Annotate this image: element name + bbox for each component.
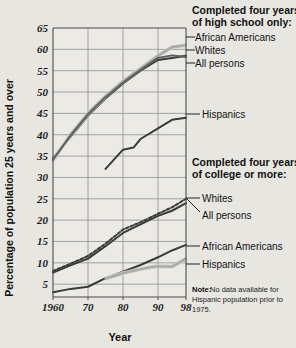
x-axis-title: Year bbox=[108, 331, 132, 343]
plot-area bbox=[53, 28, 186, 297]
y-tick-label: 25 bbox=[36, 193, 49, 205]
y-tick-label: 35 bbox=[36, 150, 49, 162]
note-text-line3: 1975. bbox=[192, 305, 211, 314]
y-tick-label: 60 bbox=[37, 43, 49, 55]
legend-hs-item-all-persons: All persons bbox=[195, 58, 244, 69]
legend-college-item-all-persons: All persons bbox=[202, 210, 251, 221]
legend-hs-item-hispanics: Hispanics bbox=[202, 109, 245, 120]
note-text-line1: No data available for bbox=[210, 285, 279, 294]
y-tick-label: 40 bbox=[36, 129, 49, 141]
y-tick-label: 45 bbox=[36, 107, 49, 119]
y-tick-label: 15 bbox=[37, 235, 49, 247]
legend-hs-item-whites: Whites bbox=[195, 45, 226, 56]
y-tick-label: 65 bbox=[37, 22, 49, 34]
legend-college-heading-line1: Completed four years bbox=[192, 156, 296, 168]
chart-figure: 5101520253035404550556065 196070809098 P… bbox=[0, 0, 296, 348]
x-tick-label: 90 bbox=[153, 301, 165, 313]
y-tick-label: 55 bbox=[37, 65, 49, 77]
legend-college-item-hispanics: Hispanics bbox=[202, 259, 245, 270]
y-tick-label: 30 bbox=[36, 171, 49, 183]
legend-hs-heading-line2: of high school only: bbox=[192, 16, 292, 28]
note-text-line2: Hispanic population prior to bbox=[192, 295, 283, 304]
legend-college-item-whites: Whites bbox=[202, 193, 233, 204]
legend-college-heading-line2: of college or more: bbox=[192, 168, 287, 180]
x-tick-label: 1960 bbox=[42, 301, 65, 313]
x-tick-label: 98 bbox=[181, 301, 193, 313]
x-tick-label: 70 bbox=[83, 301, 95, 313]
y-tick-label: 20 bbox=[36, 214, 49, 226]
note-label: Note: bbox=[192, 285, 211, 294]
y-tick-label: 5 bbox=[43, 278, 49, 290]
legend-hs-item-african-americans: African Americans bbox=[195, 32, 276, 43]
legend-hs-heading-line1: Completed four years bbox=[192, 4, 296, 16]
y-tick-label: 10 bbox=[37, 257, 49, 269]
y-axis-title: Percentage of population 25 years and ov… bbox=[3, 79, 15, 297]
x-tick-label: 80 bbox=[118, 301, 130, 313]
legend-college-item-african-americans: African Americans bbox=[202, 241, 283, 252]
y-tick-label: 50 bbox=[37, 86, 49, 98]
education-attainment-line-chart: 5101520253035404550556065 196070809098 P… bbox=[0, 0, 296, 348]
